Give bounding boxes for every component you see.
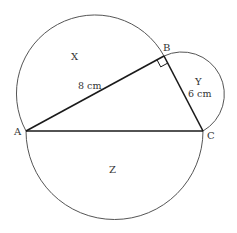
region-label-y: Y bbox=[194, 76, 202, 87]
side-ab-length-label: 8 cm bbox=[78, 80, 101, 91]
semicircle-x-arc bbox=[16, 15, 164, 131]
vertex-label-a: A bbox=[13, 126, 22, 137]
semicircle-z-arc bbox=[26, 131, 203, 220]
side-bc-length-label: 6 cm bbox=[188, 88, 211, 99]
vertex-label-c: C bbox=[207, 130, 215, 141]
region-label-z: Z bbox=[109, 164, 116, 175]
vertex-label-b: B bbox=[163, 42, 170, 53]
diagram: A B C 8 cm 6 cm X Y Z bbox=[0, 0, 237, 233]
side-ab bbox=[26, 56, 164, 131]
region-label-x: X bbox=[71, 51, 79, 62]
